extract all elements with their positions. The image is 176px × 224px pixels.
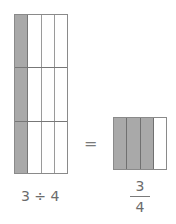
division-expression: 3 ÷ 4 [21,189,59,203]
fraction-denominator: 4 [128,200,152,214]
equals-sign: = [84,136,97,152]
model-border [14,14,68,174]
fraction-numerator: 3 [128,179,152,193]
model-border [113,117,167,170]
fraction-result: 3 4 [128,179,152,214]
fraction-bar [130,196,150,197]
division-model-three-wholes [14,14,68,174]
fraction-model-one-whole [113,117,167,170]
